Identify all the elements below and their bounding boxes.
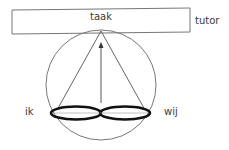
triangle-left-leg	[57, 31, 101, 110]
triangle-right-leg	[101, 31, 145, 110]
task-label: taak	[82, 11, 120, 23]
arrow-up-icon	[99, 42, 104, 48]
tutor-label: tutor	[195, 15, 219, 27]
self-label: ik	[25, 106, 34, 118]
group-label: wij	[164, 106, 178, 118]
